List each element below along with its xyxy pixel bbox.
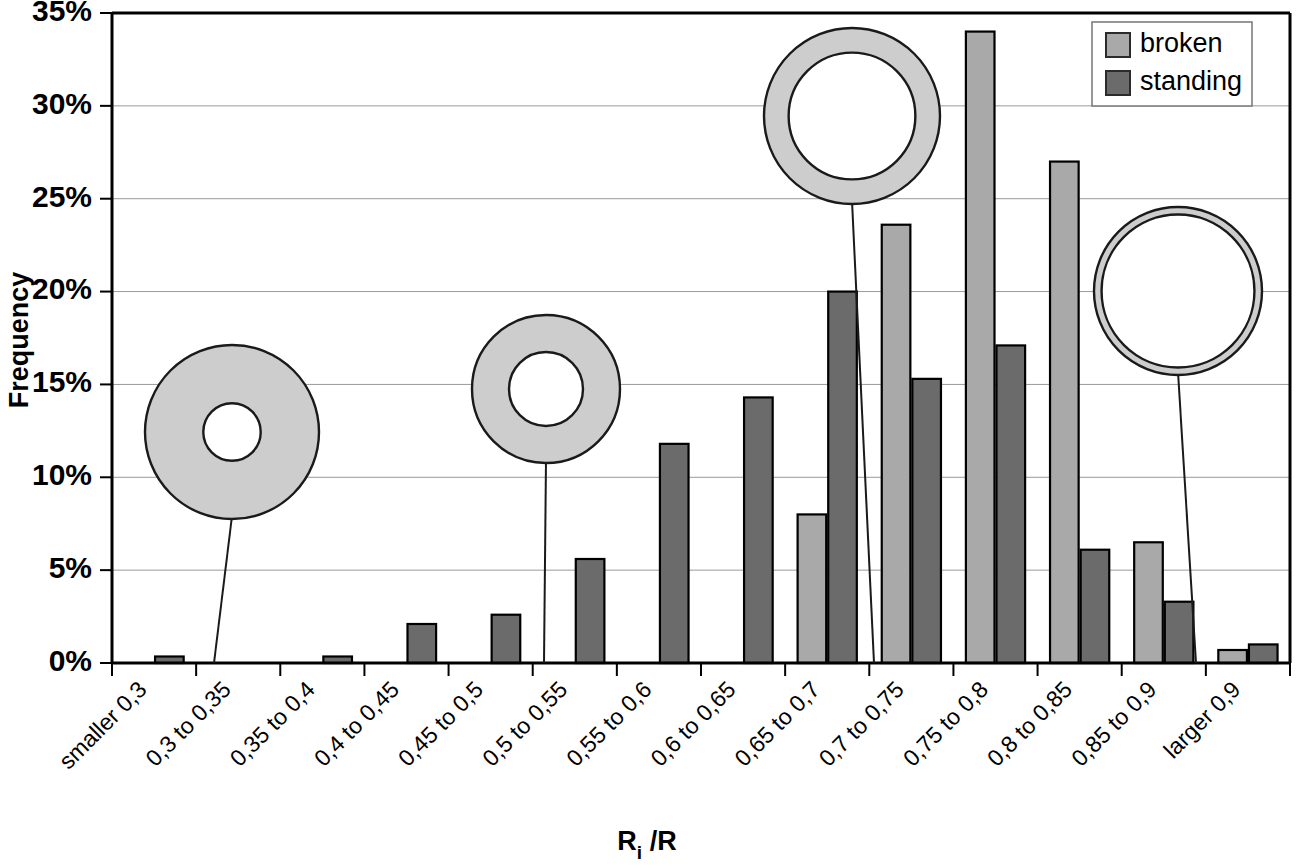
x-axis-title: Ri /R — [617, 826, 676, 863]
ring-medium-hole-hole — [509, 352, 583, 426]
x-tick-label: 0,6 to 0,65 — [645, 676, 740, 771]
x-tick-label: 0,35 to 0,4 — [225, 676, 320, 771]
x-tick-label: 0,7 to 0,75 — [814, 676, 909, 771]
ring-leader-line — [544, 460, 546, 663]
bar-standing — [660, 444, 689, 663]
legend-swatch-standing[interactable] — [1106, 71, 1130, 95]
bar-broken — [798, 514, 827, 663]
ring-thin-large-hole-hole — [789, 53, 916, 180]
bar-broken — [966, 32, 995, 663]
ring-leader-line — [214, 516, 232, 663]
x-tick-label: 0,85 to 0,9 — [1066, 676, 1161, 771]
bar-broken — [1050, 162, 1079, 663]
bar-standing — [744, 397, 773, 663]
legend-label-broken[interactable]: broken — [1140, 28, 1223, 58]
x-tick-label: 0,8 to 0,85 — [982, 676, 1077, 771]
x-tick-label: smaller 0,3 — [54, 676, 152, 774]
frequency-bar-chart: 0%5%10%15%20%25%30%35% smaller 0,30,3 to… — [0, 0, 1310, 865]
y-axis-ticks: 0%5%10%15%20%25%30%35% — [32, 0, 112, 677]
x-tick-label: 0,4 to 0,45 — [309, 676, 404, 771]
bar-standing — [492, 615, 521, 663]
x-tick-label: larger 0,9 — [1158, 676, 1245, 763]
legend-swatch-broken[interactable] — [1106, 33, 1130, 57]
bar-standing — [576, 559, 605, 663]
bar-broken — [1218, 650, 1247, 663]
bar-standing — [828, 292, 857, 663]
chart-stage: 0%5%10%15%20%25%30%35% smaller 0,30,3 to… — [0, 0, 1310, 865]
y-tick-label: 10% — [32, 458, 92, 491]
ring-very-thin-hole — [1102, 215, 1255, 368]
x-tick-label: 0,3 to 0,35 — [141, 676, 236, 771]
y-tick-label: 25% — [32, 180, 92, 213]
bar-broken — [882, 225, 911, 663]
x-tick-label: 0,75 to 0,8 — [898, 676, 993, 771]
legend-label-standing[interactable]: standing — [1140, 66, 1242, 96]
y-tick-label: 20% — [32, 272, 92, 305]
y-tick-label: 15% — [32, 365, 92, 398]
y-tick-label: 5% — [49, 551, 92, 584]
bar-standing — [1249, 644, 1278, 663]
bar-standing — [408, 624, 437, 663]
x-tick-label: 0,5 to 0,55 — [477, 676, 572, 771]
bar-standing — [997, 345, 1026, 663]
legend[interactable]: brokenstanding — [1092, 22, 1252, 106]
bar-broken — [1134, 542, 1163, 663]
x-axis-ticks: smaller 0,30,3 to 0,350,35 to 0,40,4 to … — [54, 663, 1290, 774]
ring-thick-small-hole-hole — [203, 403, 260, 460]
y-axis-title: Frequency — [4, 272, 34, 409]
x-tick-label: 0,45 to 0,5 — [393, 676, 488, 771]
bar-standing — [912, 379, 941, 663]
bar-standing — [1165, 602, 1194, 663]
x-tick-label: 0,65 to 0,7 — [730, 676, 825, 771]
ring-annotation — [1094, 207, 1262, 663]
y-tick-label: 30% — [32, 87, 92, 120]
x-tick-label: 0,55 to 0,6 — [561, 676, 656, 771]
ring-annotation — [145, 345, 319, 663]
bars-group — [155, 32, 1277, 663]
bar-standing — [1081, 550, 1110, 663]
y-tick-label: 0% — [49, 644, 92, 677]
y-tick-label: 35% — [32, 0, 92, 27]
